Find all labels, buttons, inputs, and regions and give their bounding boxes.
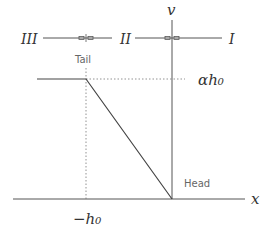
v-axis-label: v [167,1,176,19]
head-label: Head [184,178,210,189]
region-label-i: I [228,31,235,47]
x-axis-label: x [251,190,260,208]
wave-profile [37,79,172,199]
region-label-ii: II [119,31,132,47]
position-annotation: −h₀ [73,210,101,228]
tail-label: Tail [74,54,91,65]
diagram-svg: III II I v x Tail Head αh₀ −h₀ [0,0,272,230]
region-label-iii: III [20,31,38,47]
level-annotation: αh₀ [198,71,224,89]
wave-profile-diagram: III II I v x Tail Head αh₀ −h₀ [0,0,272,230]
